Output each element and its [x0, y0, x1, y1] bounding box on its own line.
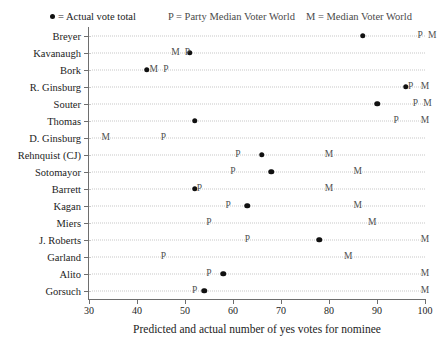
- marker-m-breyer: M: [428, 31, 436, 41]
- x-axis-tick-label-60: 60: [228, 305, 238, 316]
- y-axis-label-j-roberts: J. Roberts: [39, 234, 81, 245]
- marker-p-rehnquist-cj: P: [235, 150, 240, 160]
- marker-m-bork: M: [150, 65, 158, 75]
- x-axis-tick: [137, 299, 138, 304]
- marker-m-sotomayor: M: [354, 167, 362, 177]
- marker-actual-alito: [221, 271, 227, 277]
- gridline-row: [89, 154, 425, 155]
- marker-m-kavanaugh: M: [171, 48, 179, 58]
- y-axis-tick: [84, 223, 89, 224]
- marker-p-bork: P: [163, 65, 168, 75]
- plot-area: BreyerKavanaughBorkR. GinsburgSouterThom…: [89, 27, 425, 299]
- y-axis-label-r-ginsburg: R. Ginsburg: [30, 81, 81, 92]
- y-axis-tick: [84, 70, 89, 71]
- marker-p-alito: P: [206, 269, 211, 279]
- marker-actual-thomas: [192, 118, 198, 124]
- gridline-row: [89, 52, 425, 53]
- gridline-row: [89, 239, 425, 240]
- y-axis-tick: [84, 291, 89, 292]
- filled-circle-icon: [50, 14, 55, 19]
- marker-p-sotomayor: P: [230, 167, 235, 177]
- x-axis-line: [88, 299, 425, 300]
- marker-actual-kagan: [245, 203, 251, 209]
- marker-actual-sotomayor: [269, 169, 275, 175]
- gridline-row: [89, 256, 425, 257]
- x-axis-tick-label-50: 50: [180, 305, 190, 316]
- marker-actual-j-roberts: [317, 237, 323, 243]
- x-axis-tick-label-90: 90: [372, 305, 382, 316]
- marker-p-miers: P: [206, 218, 211, 228]
- gridline-row: [89, 137, 425, 138]
- x-axis-tick-label-70: 70: [276, 305, 286, 316]
- legend-median-voter: M = Median Voter World: [306, 10, 412, 24]
- vote-prediction-chart: = Actual vote total P = Party Median Vot…: [0, 0, 444, 344]
- y-axis-tick: [84, 172, 89, 173]
- y-axis-label-kagan: Kagan: [54, 200, 81, 211]
- x-axis-tick: [89, 299, 90, 304]
- x-axis-tick: [185, 299, 186, 304]
- marker-m-alito: M: [421, 269, 429, 279]
- y-axis-tick: [84, 206, 89, 207]
- marker-actual-rehnquist-cj: [259, 152, 265, 158]
- marker-p-j-roberts: P: [245, 235, 250, 245]
- y-axis-tick: [84, 53, 89, 54]
- y-axis-tick: [84, 121, 89, 122]
- y-axis-label-alito: Alito: [59, 268, 81, 279]
- x-axis-tick-label-80: 80: [324, 305, 334, 316]
- gridline-row: [89, 188, 425, 189]
- y-axis-label-bork: Bork: [60, 64, 81, 75]
- y-axis-label-thomas: Thomas: [47, 115, 81, 126]
- x-axis-tick-label-30: 30: [84, 305, 94, 316]
- x-axis-tick: [425, 299, 426, 304]
- marker-p-kagan: P: [226, 201, 231, 211]
- marker-actual-gorsuch: [201, 288, 207, 294]
- gridline-row: [89, 273, 425, 274]
- marker-m-r-ginsburg: M: [421, 82, 429, 92]
- marker-m-j-roberts: M: [421, 235, 429, 245]
- y-axis-label-d-ginsburg: D. Ginsburg: [29, 132, 81, 143]
- chart-legend: = Actual vote total P = Party Median Vot…: [0, 8, 444, 26]
- y-axis-label-miers: Miers: [57, 217, 82, 228]
- marker-p-barrett: P: [197, 184, 202, 194]
- marker-actual-souter: [374, 101, 380, 107]
- legend-party-median: P = Party Median Voter World: [168, 10, 295, 24]
- y-axis-tick: [84, 138, 89, 139]
- x-axis-tick: [329, 299, 330, 304]
- y-axis-tick: [84, 257, 89, 258]
- x-axis-tick-label-40: 40: [132, 305, 142, 316]
- gridline-row: [89, 171, 425, 172]
- marker-m-gorsuch: M: [421, 286, 429, 296]
- y-axis-tick: [84, 240, 89, 241]
- marker-p-r-ginsburg: P: [408, 82, 413, 92]
- marker-m-garland: M: [344, 252, 352, 262]
- marker-m-d-ginsburg: M: [102, 133, 110, 143]
- x-axis-tick: [281, 299, 282, 304]
- y-axis-label-barrett: Barrett: [52, 183, 81, 194]
- x-axis-tick: [233, 299, 234, 304]
- y-axis-label-garland: Garland: [47, 251, 81, 262]
- x-axis-tick: [377, 299, 378, 304]
- gridline-row: [89, 205, 425, 206]
- y-axis-label-rehnquist-cj: Rehnquist (CJ): [18, 149, 81, 160]
- y-axis-tick: [84, 274, 89, 275]
- y-axis-tick: [84, 189, 89, 190]
- y-axis-tick: [84, 36, 89, 37]
- y-axis-tick: [84, 104, 89, 105]
- x-axis-tick-label-100: 100: [418, 305, 433, 316]
- y-axis-label-souter: Souter: [54, 98, 81, 109]
- marker-p-souter: P: [413, 99, 418, 109]
- y-axis-tick: [84, 87, 89, 88]
- marker-p-gorsuch: P: [192, 286, 197, 296]
- marker-p-breyer: P: [418, 31, 423, 41]
- marker-m-rehnquist-cj: M: [325, 150, 333, 160]
- gridline-row: [89, 69, 425, 70]
- marker-p-kavanaugh: P: [185, 48, 190, 58]
- marker-p-d-ginsburg: P: [161, 133, 166, 143]
- marker-m-thomas: M: [421, 116, 429, 126]
- y-axis-line: [88, 27, 89, 299]
- marker-m-souter: M: [423, 99, 431, 109]
- y-axis-label-gorsuch: Gorsuch: [45, 285, 81, 296]
- gridline-row: [89, 120, 425, 121]
- gridline-row: [89, 35, 425, 36]
- gridline-row: [89, 290, 425, 291]
